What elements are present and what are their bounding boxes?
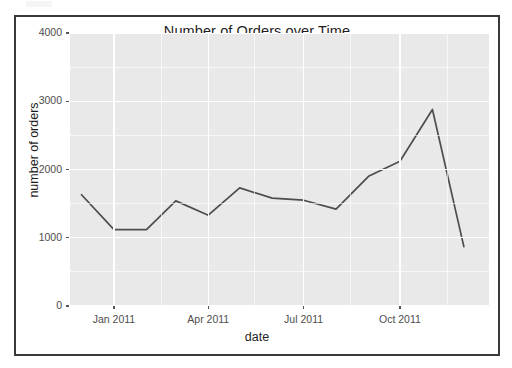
plot-panel xyxy=(70,33,489,306)
gridline-y-minor xyxy=(70,135,489,136)
x-tick-mark xyxy=(113,306,114,309)
y-tick-label: 4000 xyxy=(18,26,62,38)
gridline-y-major xyxy=(70,101,489,102)
x-tick-mark xyxy=(303,306,304,309)
gridline-x-major xyxy=(399,33,400,306)
gridline-y-minor xyxy=(70,203,489,204)
gridline-x-major xyxy=(113,33,114,306)
gridline-y-minor xyxy=(70,67,489,68)
gridline-y-major xyxy=(70,237,489,238)
plot-area: Number of Orders over Time number of ord… xyxy=(16,17,498,354)
gridline-x-major xyxy=(208,33,209,306)
x-tick-mark xyxy=(399,306,400,309)
y-tick-label: 0 xyxy=(18,299,62,311)
y-tick-mark xyxy=(66,237,69,238)
gridline-y-major xyxy=(70,305,489,306)
y-tick-mark xyxy=(66,101,69,102)
gridline-y-major xyxy=(70,33,489,34)
y-tick-mark xyxy=(66,305,69,306)
y-tick-label: 2000 xyxy=(18,163,62,175)
x-tick-mark xyxy=(208,306,209,309)
x-tick-label: Jul 2011 xyxy=(284,313,323,325)
capture-artifact xyxy=(26,1,52,7)
y-tick-label: 1000 xyxy=(18,231,62,243)
x-tick-label: Jan 2011 xyxy=(93,313,135,325)
y-tick-mark xyxy=(66,32,69,33)
y-tick-label: 3000 xyxy=(18,94,62,106)
gridline-x-minor xyxy=(447,33,448,306)
y-tick-mark xyxy=(66,169,69,170)
gridline-x-minor xyxy=(161,33,162,306)
x-axis-title: date xyxy=(16,330,498,344)
gridline-x-major xyxy=(303,33,304,306)
figure-frame: Number of Orders over Time number of ord… xyxy=(14,15,500,356)
series-polyline xyxy=(82,109,464,246)
gridline-x-minor xyxy=(350,33,351,306)
gridline-y-major xyxy=(70,169,489,170)
gridline-y-minor xyxy=(70,271,489,272)
x-tick-label: Oct 2011 xyxy=(379,313,421,325)
x-tick-label: Apr 2011 xyxy=(187,313,229,325)
gridline-x-minor xyxy=(254,33,255,306)
